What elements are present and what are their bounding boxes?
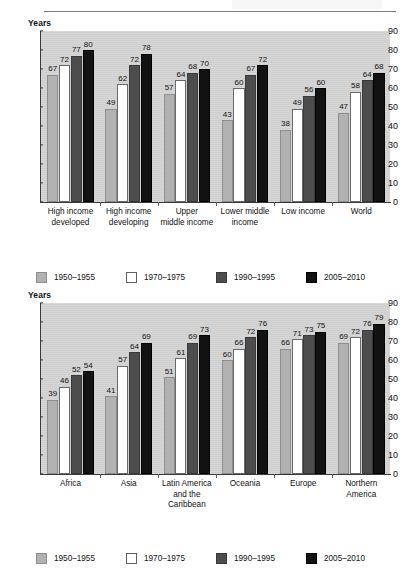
bar-value-label: 67 xyxy=(246,65,255,73)
bar-value-label: 68 xyxy=(375,63,384,71)
bar-value-label: 69 xyxy=(188,333,197,341)
bar-series-bottom: 3946525441576469516169736066727666717375… xyxy=(41,303,390,474)
bar-value-label: 64 xyxy=(130,343,139,351)
bar xyxy=(338,113,349,202)
bar-value-label: 72 xyxy=(246,328,255,336)
bar xyxy=(187,343,198,474)
bar xyxy=(245,337,256,474)
bar xyxy=(105,396,116,474)
legend-label: 1970–1975 xyxy=(144,554,185,563)
bar xyxy=(338,343,349,474)
bar-value-label: 64 xyxy=(176,71,185,79)
bar xyxy=(303,335,314,474)
bar xyxy=(257,330,268,474)
x-axis-category-label: World xyxy=(318,207,403,218)
bar-value-label: 80 xyxy=(84,41,93,49)
x-axis-group-separator xyxy=(332,474,333,478)
legend-top: 1950–19551970–19751990–19952005–2010 xyxy=(36,270,396,284)
bar-group: 38495660 xyxy=(280,31,327,202)
bar-value-label: 47 xyxy=(339,103,348,111)
bar-group: 43606772 xyxy=(222,31,269,202)
bar xyxy=(362,80,373,202)
bar xyxy=(233,349,244,474)
x-axis-category-labels-bottom: AfricaAsiaLatin America and the Caribbea… xyxy=(40,479,391,521)
bar xyxy=(303,96,314,202)
bar-value-label: 52 xyxy=(72,366,81,374)
x-axis-group-separator xyxy=(158,474,159,478)
bar xyxy=(117,366,128,474)
bar xyxy=(141,54,152,202)
bar-value-label: 62 xyxy=(118,75,127,83)
bar-value-label: 76 xyxy=(258,320,267,328)
bar-value-label: 71 xyxy=(293,330,302,338)
legend-item: 1950–1955 xyxy=(36,272,126,283)
bar-value-label: 49 xyxy=(106,99,115,107)
bar-value-label: 57 xyxy=(118,356,127,364)
bar xyxy=(350,92,361,202)
bar-value-label: 69 xyxy=(142,333,151,341)
bar xyxy=(233,88,244,202)
legend-item: 1950–1955 xyxy=(36,553,126,564)
legend-item: 1990–1995 xyxy=(216,272,306,283)
bar-value-label: 76 xyxy=(363,320,372,328)
bar xyxy=(141,343,152,474)
legend-swatch xyxy=(306,553,317,564)
x-axis-group-separator xyxy=(216,202,217,206)
x-axis-group-separator xyxy=(332,202,333,206)
bar xyxy=(350,337,361,474)
bar-value-label: 72 xyxy=(351,328,360,336)
bar xyxy=(47,400,58,474)
legend-swatch xyxy=(216,272,227,283)
bar xyxy=(245,75,256,202)
bar-group: 41576469 xyxy=(105,303,152,474)
bar-value-label: 77 xyxy=(72,46,81,54)
bar xyxy=(164,94,175,202)
bar-value-label: 75 xyxy=(316,322,325,330)
bar xyxy=(187,73,198,202)
legend-label: 1950–1955 xyxy=(54,554,95,563)
bar-value-label: 66 xyxy=(281,339,290,347)
bar xyxy=(129,65,140,202)
bar-value-label: 57 xyxy=(165,84,174,92)
legend-item: 1970–1975 xyxy=(126,553,216,564)
x-axis-group-separator xyxy=(158,202,159,206)
scan-artifact-text xyxy=(232,0,382,9)
legend-label: 2005–2010 xyxy=(324,273,365,282)
header-rule xyxy=(44,11,396,12)
bar-value-label: 61 xyxy=(176,349,185,357)
bar-value-label: 72 xyxy=(60,56,69,64)
bar xyxy=(199,69,210,202)
bar-value-label: 69 xyxy=(339,333,348,341)
bar-group: 47586468 xyxy=(338,31,385,202)
bar xyxy=(292,339,303,474)
legend-swatch xyxy=(36,553,47,564)
bar xyxy=(164,377,175,474)
bar-value-label: 68 xyxy=(188,63,197,71)
bar-value-label: 54 xyxy=(84,362,93,370)
bar-value-label: 72 xyxy=(258,56,267,64)
x-axis-group-separator xyxy=(216,474,217,478)
bar xyxy=(199,335,210,474)
y-axis-unit-label-top: Years xyxy=(28,18,51,28)
bar xyxy=(362,330,373,474)
bar xyxy=(59,65,70,202)
bar-value-label: 39 xyxy=(48,390,57,398)
bar-value-label: 51 xyxy=(165,368,174,376)
bar-value-label: 73 xyxy=(200,326,209,334)
bar-value-label: 43 xyxy=(223,111,232,119)
bar xyxy=(222,360,233,474)
bar-value-label: 73 xyxy=(305,326,314,334)
bar-group: 66717375 xyxy=(280,303,327,474)
bar-group: 67727780 xyxy=(47,31,94,202)
bar xyxy=(280,130,291,202)
bar-value-label: 56 xyxy=(305,86,314,94)
bar-group: 49627278 xyxy=(105,31,152,202)
bar-group: 69727679 xyxy=(338,303,385,474)
bar-value-label: 66 xyxy=(235,339,244,347)
bar xyxy=(292,109,303,202)
bar-value-label: 38 xyxy=(281,120,290,128)
bar-value-label: 78 xyxy=(142,44,151,52)
bar-value-label: 79 xyxy=(375,314,384,322)
bar-group: 60667276 xyxy=(222,303,269,474)
x-axis-group-separator xyxy=(274,474,275,478)
